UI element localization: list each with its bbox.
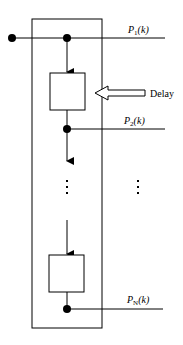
ellipsis-inner-icon	[66, 180, 68, 194]
delay-line-diagram: P1(k) Delay P2(k) PN(k)	[0, 0, 183, 345]
delay-block-1	[50, 73, 85, 110]
output-label-1: P1(k)	[127, 24, 149, 37]
output-label-n: PN(k)	[126, 294, 150, 307]
delay-block-n	[49, 255, 84, 292]
ellipsis-outer-icon	[137, 180, 139, 194]
input-node	[8, 34, 16, 42]
output-label-2: P2(k)	[123, 115, 145, 128]
delay-label: Delay	[150, 88, 174, 99]
